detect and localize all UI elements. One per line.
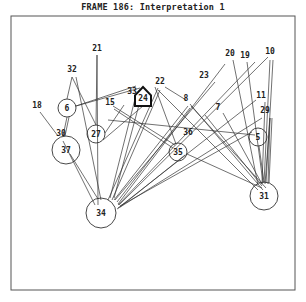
label-19: 19 bbox=[240, 51, 250, 60]
node-27[interactable]: 27 bbox=[87, 125, 105, 143]
label-33: 33 bbox=[127, 87, 137, 96]
edge bbox=[115, 82, 215, 200]
edge bbox=[155, 87, 176, 144]
node-24[interactable]: 24 bbox=[135, 87, 151, 106]
label-30: 30 bbox=[56, 129, 66, 138]
node-label: 35 bbox=[173, 148, 183, 157]
label-32: 32 bbox=[67, 65, 77, 74]
diagram-canvas: 63727243553431 2132183015332287233620191… bbox=[0, 0, 306, 302]
label-29: 29 bbox=[260, 106, 270, 115]
frame-border bbox=[11, 16, 295, 290]
node-label: 5 bbox=[256, 133, 261, 142]
node-37[interactable]: 37 bbox=[52, 136, 80, 164]
edge bbox=[119, 57, 268, 205]
node-34[interactable]: 34 bbox=[86, 198, 116, 228]
node-label: 6 bbox=[65, 104, 70, 113]
edge bbox=[118, 64, 225, 204]
label-21: 21 bbox=[92, 44, 102, 53]
node-6[interactable]: 6 bbox=[58, 99, 76, 117]
node-label: 24 bbox=[138, 94, 148, 103]
edge bbox=[247, 62, 263, 183]
label-15: 15 bbox=[105, 98, 115, 107]
label-7: 7 bbox=[216, 103, 221, 112]
node-label: 27 bbox=[91, 130, 101, 139]
node-label: 31 bbox=[259, 192, 269, 201]
edge bbox=[108, 120, 255, 135]
label-11: 11 bbox=[256, 91, 266, 100]
edge bbox=[70, 154, 98, 199]
node-layer: 63727243553431 bbox=[52, 87, 278, 228]
label-36: 36 bbox=[183, 128, 193, 137]
label-22: 22 bbox=[155, 77, 165, 86]
label-18: 18 bbox=[32, 101, 42, 110]
label-20: 20 bbox=[225, 49, 235, 58]
label-10: 10 bbox=[265, 47, 275, 56]
node-label: 34 bbox=[96, 209, 106, 218]
edge bbox=[158, 90, 258, 190]
edge bbox=[67, 77, 72, 99]
label-8: 8 bbox=[184, 94, 189, 103]
edge bbox=[120, 155, 185, 207]
node-label: 37 bbox=[61, 146, 71, 155]
node-35[interactable]: 35 bbox=[169, 143, 187, 161]
label-23: 23 bbox=[199, 71, 209, 80]
